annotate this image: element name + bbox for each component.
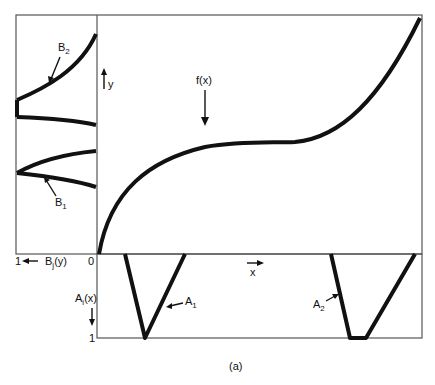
fuzzy-function-diagram: B2 B1 y f(x) x 0 1 Bj(y) Ai(x) 1 A1 A2 (… [0, 0, 435, 385]
b2-label: B2 [58, 41, 70, 56]
a-axis-label: Ai(x) [75, 292, 97, 307]
outer-frame [16, 15, 422, 254]
a1-label: A1 [185, 295, 197, 310]
a2-label: A2 [313, 298, 325, 313]
a-axis-one-label: 1 [89, 332, 95, 344]
b1-lower-curve [17, 173, 96, 187]
b-axis-label: Bj(y) [45, 255, 67, 270]
f-x-label: f(x) [196, 74, 212, 86]
a2-trapezoid [331, 254, 415, 338]
b2-lower-curve [17, 117, 96, 125]
y-axis-label: y [108, 78, 114, 90]
a2-pointer-arrow [326, 296, 335, 301]
a1-triangle [125, 254, 185, 338]
b-axis-one-label: 1 [15, 255, 21, 267]
a1-arrowhead [166, 303, 172, 309]
f-x-curve [99, 18, 420, 254]
f-x-arrowhead [201, 117, 209, 126]
y-arrowhead [101, 68, 107, 75]
x-arrowhead [257, 260, 264, 266]
b1-pointer-arrow [46, 180, 56, 196]
x-axis-label: x [250, 266, 256, 278]
b1-upper-curve [17, 151, 96, 173]
origin-label: 0 [88, 255, 94, 267]
b1-label: B1 [55, 196, 67, 211]
figure-caption: (a) [229, 360, 242, 372]
b-axis-arrowhead [22, 258, 29, 264]
a-axis-arrowhead [89, 319, 95, 326]
